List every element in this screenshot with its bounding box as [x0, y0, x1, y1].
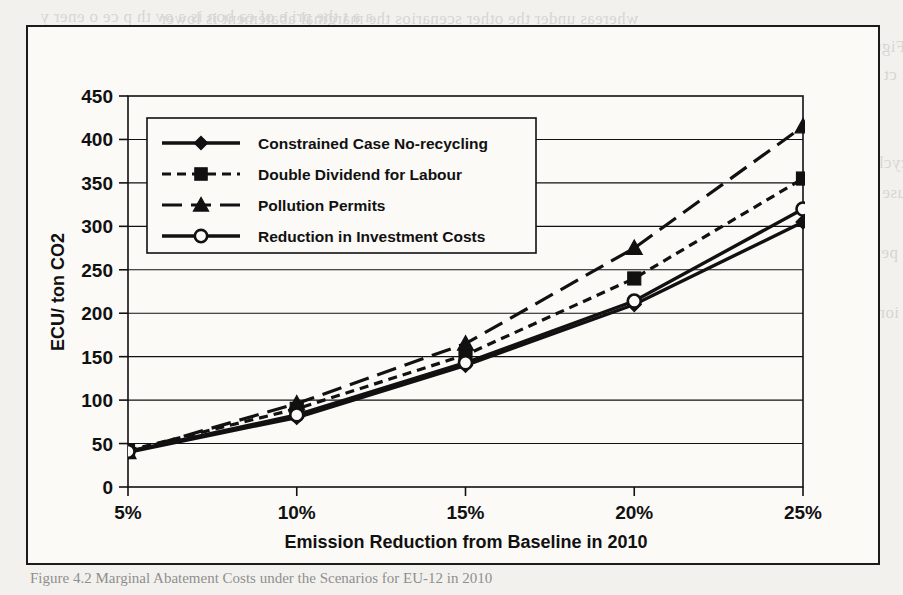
- y-tick-label: 150: [81, 347, 113, 368]
- chart-legend: Constrained Case No-recyclingDouble Divi…: [147, 118, 536, 253]
- y-tick-label: 0: [102, 477, 113, 498]
- data-point-square: [195, 168, 207, 180]
- x-tick-label: 5%: [114, 502, 142, 523]
- chart-plot-area: 050100150200250300350400450 5%10%15%20%2…: [0, 0, 903, 595]
- y-tick-label: 250: [81, 260, 113, 281]
- y-tick-label: 300: [81, 216, 113, 237]
- data-point-circle: [290, 408, 303, 421]
- data-point-circle: [797, 202, 810, 215]
- chart-svg: 050100150200250300350400450 5%10%15%20%2…: [0, 0, 903, 595]
- legend-label: Constrained Case No-recycling: [258, 135, 488, 152]
- x-tick-label: 25%: [784, 502, 822, 523]
- x-axis-label: Emission Reduction from Baseline in 2010: [284, 532, 647, 552]
- y-tick-label: 200: [81, 303, 113, 324]
- x-tick-label: 15%: [446, 502, 484, 523]
- x-axis-ticks: 5%10%15%20%25%: [114, 487, 822, 523]
- y-axis-ticks: 050100150200250300350400450: [81, 86, 128, 498]
- figure-caption: Figure 4.2 Marginal Abatement Costs unde…: [30, 570, 730, 587]
- x-tick-label: 10%: [278, 502, 316, 523]
- data-point-square: [628, 272, 641, 285]
- data-point-triangle: [795, 118, 811, 132]
- legend-item-2[interactable]: Double Dividend for Labour: [162, 166, 462, 183]
- data-point-triangle: [458, 336, 474, 350]
- y-axis-label: ECU/ ton CO2: [48, 233, 68, 351]
- data-point-diamond: [796, 215, 810, 229]
- y-tick-label: 100: [81, 390, 113, 411]
- data-point-square: [797, 172, 810, 185]
- y-tick-label: 350: [81, 173, 113, 194]
- x-tick-label: 20%: [615, 502, 653, 523]
- legend-label: Pollution Permits: [258, 197, 385, 214]
- y-tick-label: 50: [92, 434, 113, 455]
- y-tick-label: 450: [81, 86, 113, 107]
- data-point-circle: [459, 356, 472, 369]
- legend-label: Double Dividend for Labour: [258, 166, 462, 183]
- data-point-circle: [195, 230, 207, 242]
- data-point-circle: [628, 295, 641, 308]
- data-point-circle: [122, 445, 135, 458]
- legend-label: Reduction in Investment Costs: [258, 228, 485, 245]
- y-tick-label: 400: [81, 129, 113, 150]
